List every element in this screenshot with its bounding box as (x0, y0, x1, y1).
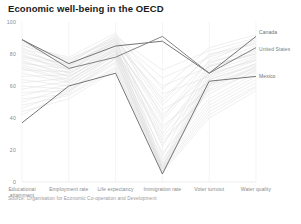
y-tick-label: 60 (0, 83, 16, 89)
chart-container: Economic well-being in the OECD 02040608… (0, 0, 301, 224)
y-tick-label: 0 (0, 179, 16, 185)
chart-source: Source: Organisation for Economic Co-ope… (8, 196, 157, 201)
series-line-background (22, 57, 256, 171)
series-label-canada: Canada (259, 29, 277, 35)
x-tick-label-1: Employment rate (43, 186, 95, 192)
y-tick-label: 40 (0, 115, 16, 121)
x-tick-label-2: Life expectancy (90, 186, 142, 192)
x-tick-label-3: Immigration rate (136, 186, 188, 192)
series-line-background (22, 40, 256, 99)
y-tick-label: 100 (0, 19, 16, 25)
series-label-united-states: United States (259, 46, 290, 52)
y-tick-label: 80 (0, 51, 16, 57)
series-line-background (22, 59, 256, 160)
series-label-mexico: Mexico (259, 73, 275, 79)
y-tick-label: 20 (0, 147, 16, 153)
x-tick-label-5: Water quality (230, 186, 282, 192)
series-line-background (22, 70, 256, 172)
series-line-background (22, 62, 256, 164)
x-tick-label-4: Voter turnout (183, 186, 235, 192)
background-series-group (22, 33, 256, 172)
